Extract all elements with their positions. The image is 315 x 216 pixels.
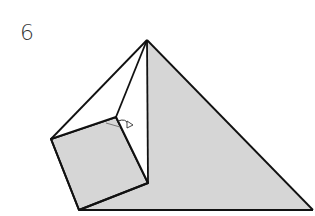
fold-line-vertical [147,40,148,183]
origami-diagram [0,0,315,216]
